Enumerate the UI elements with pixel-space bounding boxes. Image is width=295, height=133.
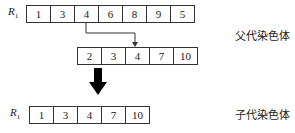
gene-cell: 3 (54, 107, 78, 123)
donor-chromosome: 2 3 4 7 10 (77, 47, 198, 65)
child-chromosome: 1 3 4 7 10 (29, 106, 150, 124)
mapping-connector (86, 22, 135, 45)
child-row-label: R1 (10, 106, 20, 121)
big-arrow-shaft (94, 68, 102, 82)
gene-cell: 7 (102, 107, 126, 123)
big-arrow-head (89, 82, 107, 95)
gene-cell: 4 (78, 107, 102, 123)
gene-cell: 4 (126, 48, 150, 64)
gene-cell: 1 (30, 107, 54, 123)
gene-cell: 10 (126, 107, 149, 123)
gene-cell: 3 (102, 48, 126, 64)
child-caption: 子代染色体 (235, 106, 290, 122)
parent-caption: 父代染色体 (235, 27, 290, 43)
gene-cell: 2 (78, 48, 102, 64)
gene-cell: 7 (150, 48, 174, 64)
gene-cell: 10 (174, 48, 197, 64)
